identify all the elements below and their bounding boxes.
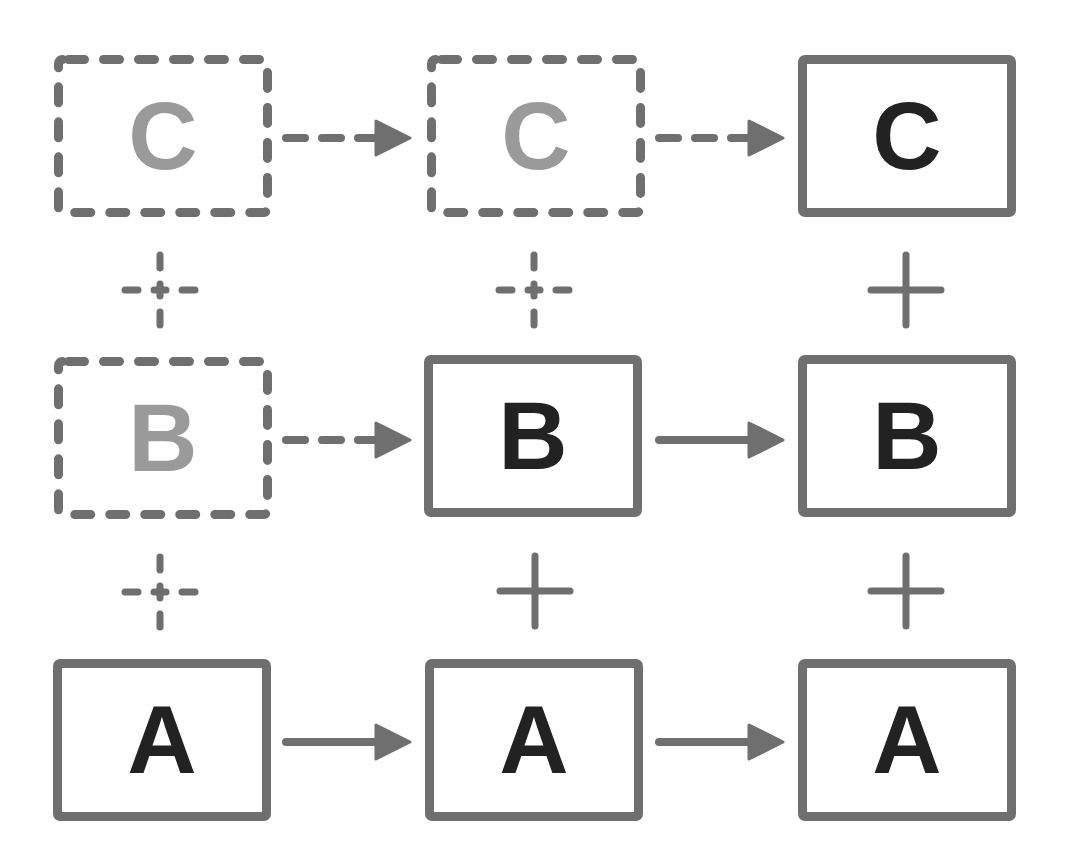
box-label: C [872,88,941,184]
plus-icon [866,250,946,330]
solid-arrow-icon [655,420,785,460]
plus-icon [866,551,946,631]
dashed-arrow-icon [282,118,412,158]
dashed-plus-icon [120,552,200,632]
box-col1-c: C [427,55,645,217]
box-col0-a: A [53,659,271,821]
box-label: C [128,88,197,184]
box-col2-c: C [798,55,1016,217]
plus-icon [495,551,575,631]
box-col2-b: B [798,355,1016,517]
box-col1-b: B [424,355,642,517]
box-label: A [127,692,196,788]
box-label: B [128,390,197,486]
solid-arrow-icon [282,722,412,762]
dashed-arrow-icon [282,420,412,460]
box-col0-c: C [54,55,272,217]
box-label: A [872,692,941,788]
box-col1-a: A [425,659,643,821]
dashed-plus-icon [120,250,200,330]
box-label: B [872,388,941,484]
box-col0-b: B [54,357,272,519]
box-label: B [498,388,567,484]
dashed-arrow-icon [655,118,785,158]
dashed-plus-icon [494,250,574,330]
box-label: C [501,88,570,184]
box-col2-a: A [798,659,1016,821]
solid-arrow-icon [655,722,785,762]
box-label: A [499,692,568,788]
